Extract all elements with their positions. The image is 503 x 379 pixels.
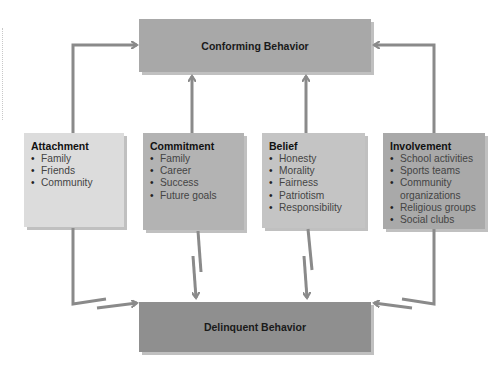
list-item: Career <box>150 165 238 177</box>
arrow-involvement-to-delinquent-b <box>374 303 412 308</box>
bond-title: Involvement <box>390 140 479 152</box>
arrow-attachment-to-delinquent-a <box>73 228 106 304</box>
list-item: Honesty <box>269 153 359 165</box>
list-item: Responsibility <box>269 202 359 214</box>
conforming-behavior-label: Conforming Behavior <box>201 40 308 52</box>
bond-items: Family Career Success Future goals <box>150 153 238 202</box>
bond-title: Commitment <box>150 140 238 152</box>
bond-attachment: Attachment Family Friends Community <box>24 133 124 227</box>
bond-belief: Belief Honesty Morality Fairness Patriot… <box>262 133 365 228</box>
list-item: Morality <box>269 165 359 177</box>
arrow-involvement-to-delinquent-a <box>402 229 434 304</box>
arrow-commitment-to-delinquent-a <box>198 231 201 272</box>
list-item: Sports teams <box>390 165 479 177</box>
arrow-involvement-to-conforming <box>374 45 434 133</box>
list-item: School activities <box>390 153 479 165</box>
delinquent-behavior-label: Delinquent Behavior <box>204 321 306 333</box>
list-item: Friends <box>31 165 118 177</box>
bond-involvement: Involvement School activities Sports tea… <box>383 133 485 229</box>
bond-commitment: Commitment Family Career Success Future … <box>143 133 244 230</box>
list-item: Community <box>31 177 118 189</box>
delinquent-behavior-box: Delinquent Behavior <box>139 302 371 352</box>
list-item: Future goals <box>150 190 238 202</box>
list-item: Community organizations <box>390 177 479 201</box>
bond-title: Belief <box>269 140 359 152</box>
bond-items: Honesty Morality Fairness Patriotism Res… <box>269 153 359 214</box>
arrow-belief-to-delinquent-b <box>304 256 307 298</box>
list-item: Family <box>31 153 118 165</box>
arrow-commitment-to-delinquent-b <box>193 256 196 298</box>
arrow-belief-to-delinquent-a <box>308 229 312 270</box>
bond-title: Attachment <box>31 140 118 152</box>
list-item: Fairness <box>269 177 359 189</box>
arrow-attachment-to-conforming <box>73 45 137 133</box>
list-item: Success <box>150 177 238 189</box>
list-item: Religious groups <box>390 202 479 214</box>
bond-items: School activities Sports teams Community… <box>390 153 479 226</box>
list-item: Patriotism <box>269 190 359 202</box>
conforming-behavior-box: Conforming Behavior <box>139 19 371 72</box>
arrow-attachment-to-delinquent-b <box>97 303 137 308</box>
list-item: Social clubs <box>390 214 479 226</box>
bond-items: Family Friends Community <box>31 153 118 190</box>
list-item: Family <box>150 153 238 165</box>
